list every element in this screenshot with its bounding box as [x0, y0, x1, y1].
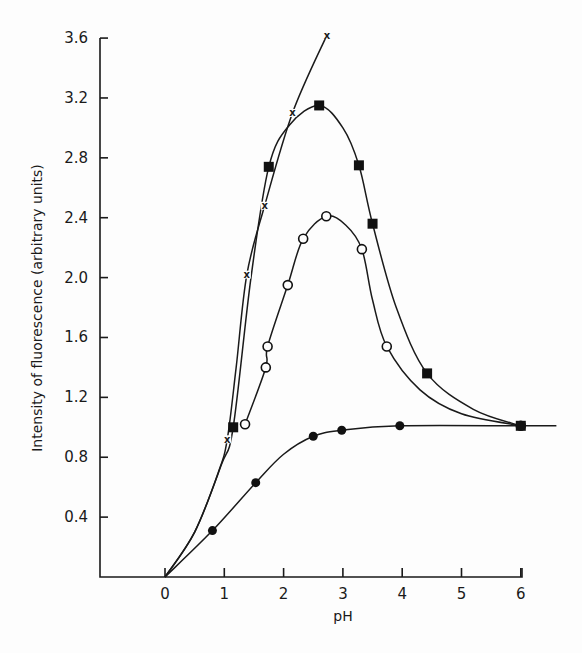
- x-tick-label: 6: [516, 585, 526, 603]
- data-point-filled-circle: [251, 478, 260, 487]
- data-point-open-circle: [357, 245, 366, 254]
- axes: [100, 38, 522, 577]
- data-point-filled-square: [354, 160, 364, 170]
- data-point-open-circle: [261, 363, 270, 372]
- markers: xxxxx: [208, 30, 526, 536]
- data-point-x: x: [289, 107, 296, 118]
- x-tick-label: 0: [160, 585, 170, 603]
- data-point-open-circle: [283, 281, 292, 290]
- y-axis-title: Intensity of fluorescence (arbitrary uni…: [29, 164, 45, 452]
- x-tick-label: 4: [397, 585, 407, 603]
- x-tick-label: 5: [457, 585, 467, 603]
- data-point-x: x: [244, 269, 251, 280]
- x-tick-label: 1: [220, 585, 230, 603]
- data-point-filled-circle: [395, 421, 404, 430]
- data-point-x: x: [224, 434, 231, 445]
- data-point-filled-square: [368, 219, 378, 229]
- data-point-filled-square: [228, 422, 238, 432]
- series-curve-x: [165, 35, 327, 577]
- curves: [165, 35, 556, 577]
- series-curve-open-circle: [245, 216, 521, 426]
- data-point-filled-square: [314, 100, 324, 110]
- data-point-filled-square: [422, 368, 432, 378]
- y-tick-label: 2.0: [64, 269, 88, 287]
- y-tick-label: 0.4: [64, 508, 88, 526]
- data-point-filled-circle: [516, 421, 525, 430]
- series-curve-filled-circle: [165, 425, 556, 577]
- data-point-open-circle: [299, 234, 308, 243]
- data-point-filled-square: [264, 162, 274, 172]
- data-point-filled-circle: [309, 432, 318, 441]
- y-tick-label: 3.2: [64, 89, 88, 107]
- data-point-open-circle: [322, 212, 331, 221]
- x-tick-label: 2: [279, 585, 289, 603]
- x-tick-label: 3: [338, 585, 348, 603]
- y-tick-label: 2.4: [64, 209, 88, 227]
- data-point-x: x: [324, 30, 331, 41]
- axis-frame: [100, 38, 522, 577]
- data-point-open-circle: [382, 342, 391, 351]
- data-point-open-circle: [263, 342, 272, 351]
- y-tick-label: 1.2: [64, 388, 88, 406]
- y-tick-label: 3.6: [64, 29, 88, 47]
- data-point-filled-circle: [337, 426, 346, 435]
- data-point-x: x: [261, 200, 268, 211]
- series-curve-filled-square: [165, 105, 521, 577]
- y-tick-label: 1.6: [64, 328, 88, 346]
- data-point-open-circle: [241, 420, 250, 429]
- x-axis-title: pH: [333, 608, 352, 624]
- chart: 0.40.81.21.62.02.42.83.23.60123456 xxxxx…: [0, 0, 582, 653]
- data-point-filled-circle: [208, 526, 217, 535]
- y-tick-label: 2.8: [64, 149, 88, 167]
- y-tick-label: 0.8: [64, 448, 88, 466]
